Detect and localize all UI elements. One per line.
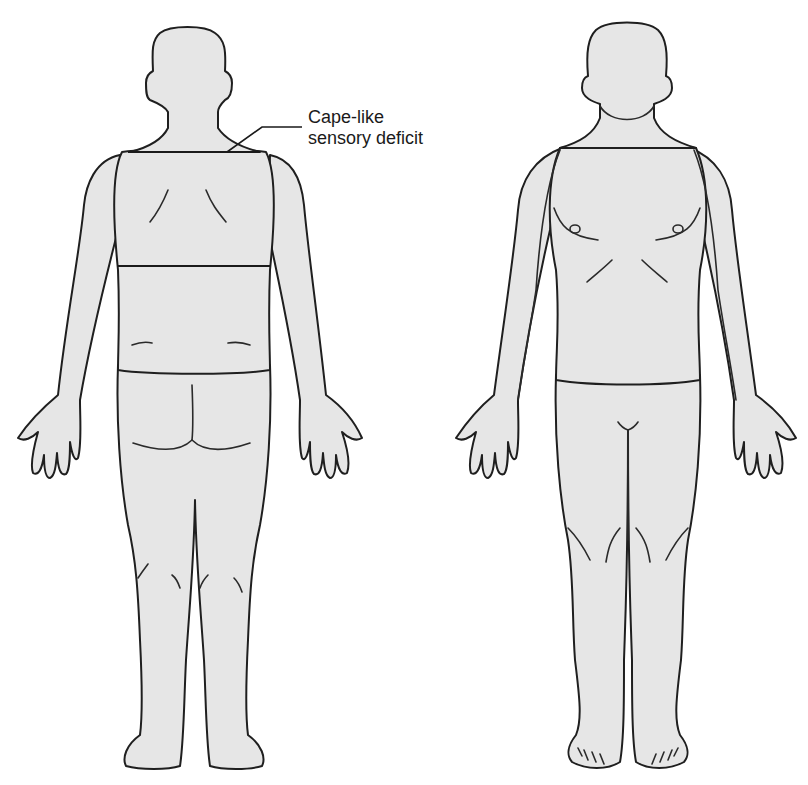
front-head <box>560 23 696 149</box>
back-gluteal-cleft <box>192 385 193 440</box>
back-head <box>130 27 260 152</box>
back-torso <box>114 149 274 374</box>
back-legs <box>117 365 270 769</box>
back-left-arm <box>18 155 120 478</box>
label-line-1: Cape-like <box>308 107 423 128</box>
front-torso <box>550 144 707 385</box>
diagram-canvas: Cape-like sensory deficit <box>0 0 808 785</box>
back-right-arm <box>268 155 362 478</box>
label-line-2: sensory deficit <box>308 128 423 149</box>
cape-deficit-label: Cape-like sensory deficit <box>308 107 423 149</box>
front-left-arm <box>456 148 562 478</box>
anterior-figure <box>456 23 796 769</box>
